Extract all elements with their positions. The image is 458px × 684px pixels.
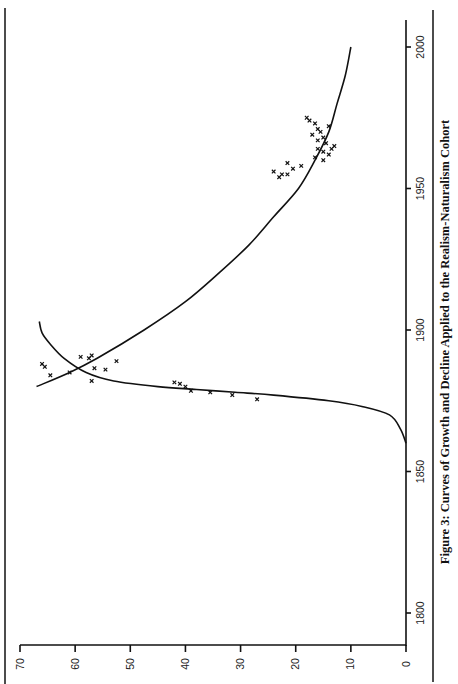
data-point-marker bbox=[310, 133, 314, 137]
growth-curve bbox=[39, 322, 406, 444]
y-tick-label: 20 bbox=[289, 658, 301, 670]
chart-canvas: 18001850190019502000 010203040506070 bbox=[0, 0, 458, 684]
data-point-marker bbox=[40, 362, 44, 366]
x-tick-label: 1950 bbox=[414, 177, 426, 201]
x-tick-label: 2000 bbox=[414, 35, 426, 59]
data-point-marker bbox=[316, 127, 320, 131]
data-point-marker bbox=[313, 122, 317, 126]
data-point-marker bbox=[321, 136, 325, 140]
data-point-marker bbox=[115, 359, 119, 363]
data-point-marker bbox=[286, 173, 290, 177]
data-point-marker bbox=[286, 161, 290, 165]
y-tick-label: 60 bbox=[69, 658, 81, 670]
data-point-marker bbox=[333, 144, 337, 148]
y-tick-label: 40 bbox=[179, 658, 191, 670]
data-point-marker bbox=[305, 116, 309, 120]
data-point-marker bbox=[316, 147, 320, 151]
data-point-marker bbox=[231, 393, 235, 397]
data-point-marker bbox=[321, 150, 325, 154]
data-point-marker bbox=[184, 385, 188, 389]
data-point-marker bbox=[255, 398, 259, 402]
data-point-marker bbox=[90, 379, 94, 383]
data-point-marker bbox=[299, 164, 303, 168]
y-axis: 010203040506070 bbox=[14, 645, 412, 670]
data-points bbox=[40, 116, 336, 401]
data-point-marker bbox=[79, 355, 83, 359]
data-point-marker bbox=[104, 368, 108, 372]
data-point-marker bbox=[93, 366, 97, 370]
data-point-marker bbox=[291, 167, 295, 171]
data-point-marker bbox=[173, 381, 177, 385]
caption-text: Figure 3: Curves of Growth and Decline A… bbox=[438, 120, 453, 564]
y-tick-label: 0 bbox=[400, 661, 412, 667]
decline-curve bbox=[37, 47, 351, 387]
data-point-marker bbox=[280, 173, 284, 177]
data-point-marker bbox=[327, 153, 331, 157]
x-tick-label: 1800 bbox=[414, 601, 426, 625]
y-tick-label: 10 bbox=[344, 658, 356, 670]
data-point-marker bbox=[321, 158, 325, 162]
y-tick-label: 30 bbox=[234, 658, 246, 670]
data-point-marker bbox=[324, 141, 328, 145]
data-point-marker bbox=[272, 170, 276, 174]
y-tick-label: 50 bbox=[124, 658, 136, 670]
data-point-marker bbox=[178, 382, 182, 386]
data-point-marker bbox=[49, 373, 53, 377]
data-point-marker bbox=[90, 354, 94, 358]
x-tick-label: 1900 bbox=[414, 318, 426, 342]
y-tick-label: 70 bbox=[14, 658, 26, 670]
x-tick-label: 1850 bbox=[414, 460, 426, 484]
x-axis: 18001850190019502000 bbox=[406, 20, 426, 646]
data-point-marker bbox=[316, 139, 320, 143]
